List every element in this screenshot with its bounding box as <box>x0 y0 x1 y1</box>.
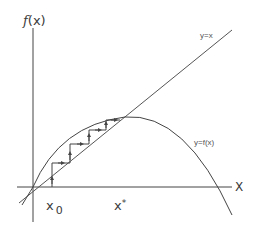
identity-line-label: y=x <box>200 32 213 40</box>
fixed-point-var: x <box>114 198 122 213</box>
y-axis-arg: (x) <box>28 13 46 28</box>
cobweb-diagram: f(x) y=x y=f(x) X x0 x* <box>0 0 256 235</box>
fixed-point-label: x* <box>114 199 126 212</box>
curve-label: y=f(x) <box>194 139 214 147</box>
fixed-point-star: * <box>122 198 127 208</box>
diagram-canvas <box>0 0 256 235</box>
cobweb-path <box>52 120 120 187</box>
x-axis-label: X <box>235 181 243 193</box>
start-point-subscript: 0 <box>56 204 63 217</box>
y-axis-label: f(x) <box>23 14 46 27</box>
start-point-label: x0 <box>46 199 63 212</box>
start-point-var: x <box>46 198 54 213</box>
